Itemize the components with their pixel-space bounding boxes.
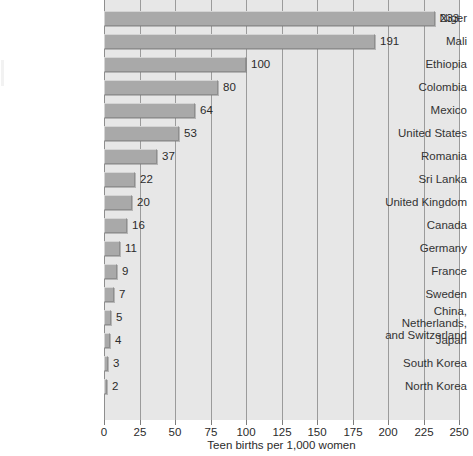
bar-row: 9 — [104, 261, 459, 284]
bar-row: 191 — [104, 31, 459, 54]
x-tick-mark-250 — [459, 420, 460, 425]
x-tick-mark-150 — [317, 420, 318, 425]
bar-value-label: 37 — [162, 148, 175, 164]
x-tick-mark-200 — [388, 420, 389, 425]
bar-row: 64 — [104, 100, 459, 123]
bar[interactable] — [104, 172, 135, 187]
bar-row: 233 — [104, 8, 459, 31]
bar-value-label: 3 — [113, 355, 119, 371]
bar-row: 16 — [104, 215, 459, 238]
x-tick-mark-225 — [424, 420, 425, 425]
bar-value-label: 7 — [119, 286, 125, 302]
bar-row: 11 — [104, 238, 459, 261]
bar[interactable] — [104, 218, 127, 233]
bar-value-label: 80 — [223, 79, 236, 95]
bar-value-label: 16 — [132, 217, 145, 233]
x-tick-mark-0 — [104, 420, 105, 425]
bar-row: 80 — [104, 77, 459, 100]
bar-value-label: 20 — [137, 194, 150, 210]
bar-value-label: 4 — [115, 332, 121, 348]
bar-value-label: 2 — [112, 378, 118, 394]
bar-value-label: 9 — [122, 263, 128, 279]
bar-row: 100 — [104, 54, 459, 77]
bar[interactable] — [104, 57, 246, 72]
x-tick-mark-125 — [282, 420, 283, 425]
bar[interactable] — [104, 34, 375, 49]
bar-row: 5 — [104, 307, 459, 330]
bar-value-label: 191 — [380, 33, 399, 49]
x-tick-mark-75 — [211, 420, 212, 425]
bar-value-label: 53 — [184, 125, 197, 141]
bar[interactable] — [104, 126, 179, 141]
x-tick-mark-175 — [353, 420, 354, 425]
bar[interactable] — [104, 11, 435, 26]
x-tick-mark-25 — [140, 420, 141, 425]
bar[interactable] — [104, 80, 218, 95]
bar[interactable] — [104, 241, 120, 256]
bar-row: 3 — [104, 353, 459, 376]
bar[interactable] — [104, 310, 111, 325]
bar-value-label: 64 — [200, 102, 213, 118]
bar-row: 53 — [104, 123, 459, 146]
bar[interactable] — [104, 149, 157, 164]
page-edge-artifact — [1, 60, 4, 86]
x-axis: 0255075100125150175200225250 — [0, 420, 473, 440]
bar-value-label: 233 — [440, 10, 459, 26]
bar-row: 37 — [104, 146, 459, 169]
bar[interactable] — [104, 264, 117, 279]
bar[interactable] — [104, 379, 107, 394]
bar[interactable] — [104, 287, 114, 302]
bar[interactable] — [104, 333, 110, 348]
bar-value-label: 100 — [251, 56, 270, 72]
x-axis-title: Teen births per 1,000 women — [104, 438, 459, 452]
x-tick-mark-100 — [246, 420, 247, 425]
x-tick-mark-50 — [175, 420, 176, 425]
bar-row: 4 — [104, 330, 459, 353]
bar[interactable] — [104, 195, 132, 210]
bar[interactable] — [104, 103, 195, 118]
bar-row: 22 — [104, 169, 459, 192]
bar-value-label: 22 — [140, 171, 153, 187]
bar-row: 20 — [104, 192, 459, 215]
bar[interactable] — [104, 356, 108, 371]
bar-value-label: 11 — [125, 240, 137, 256]
bar-row: 7 — [104, 284, 459, 307]
teen-births-bar-chart: NigerMaliEthiopiaColombiaMexicoUnited St… — [0, 0, 473, 456]
bar-value-label: 5 — [116, 309, 122, 325]
bar-row: 2 — [104, 376, 459, 399]
